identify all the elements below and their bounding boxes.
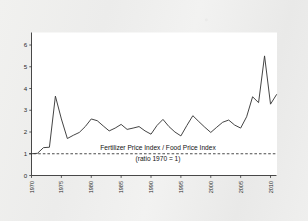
x-tick-label: 2000 — [208, 181, 214, 193]
x-tick-label: 2005 — [238, 181, 244, 193]
y-axis-ticks: 0123456 — [24, 41, 32, 178]
x-tick-label: 1975 — [58, 181, 64, 193]
y-tick-label: 3 — [24, 106, 28, 113]
chart-plot: 0123456 19701975198019851990199520002005… — [0, 0, 308, 221]
y-tick-label: 1 — [24, 150, 28, 157]
x-tick-label: 2010 — [268, 181, 274, 193]
y-tick-label: 4 — [24, 85, 28, 92]
x-tick-label: 1990 — [148, 181, 154, 193]
y-tick-label: 0 — [24, 172, 28, 179]
y-tick-label: 6 — [24, 41, 28, 48]
annotation-line-1: Fertilizer Price Index / Food Price Inde… — [100, 144, 216, 151]
x-tick-label: 1970 — [29, 181, 35, 193]
y-tick-label: 5 — [24, 63, 28, 70]
y-tick-label: 2 — [24, 128, 28, 135]
x-tick-label: 1980 — [88, 181, 94, 193]
x-tick-label: 1985 — [118, 181, 124, 193]
x-axis-ticks: 197019751980198519901995200020052010 — [29, 176, 274, 194]
annotation-line-2: (ratio 1970 = 1) — [136, 155, 181, 163]
figure-container: 0123456 19701975198019851990199520002005… — [0, 0, 308, 221]
x-tick-label: 1995 — [178, 181, 184, 193]
